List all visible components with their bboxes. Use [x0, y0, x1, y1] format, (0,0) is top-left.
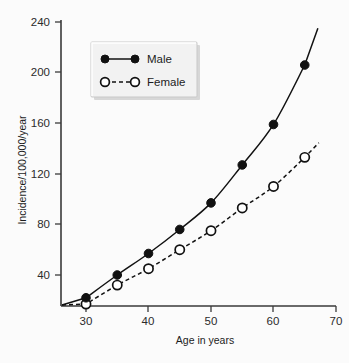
x-tick-label-70: 70 — [330, 315, 343, 327]
female-series-line — [62, 143, 319, 305]
chart-figure: 240 200 160 120 80 40 30 40 50 60 70 — [0, 0, 349, 363]
data-point-male-age-30 — [82, 293, 91, 302]
y-tick-group: 240 200 160 120 80 40 — [31, 16, 61, 281]
x-tick-label-60: 60 — [267, 315, 280, 327]
y-tick-label-160: 160 — [31, 117, 50, 129]
line-chart: 240 200 160 120 80 40 30 40 50 60 70 — [0, 0, 349, 363]
legend[interactable]: Male Female — [91, 42, 200, 100]
x-tick-label-40: 40 — [142, 315, 155, 327]
data-point-female-age-35 — [113, 281, 122, 290]
y-axis-title: Incidence/100,000/year — [16, 115, 28, 225]
x-tick-label-50: 50 — [205, 315, 218, 327]
x-axis-title: Age in years — [176, 334, 234, 346]
y-tick-label-200: 200 — [31, 66, 50, 78]
legend-male-marker-right — [131, 55, 139, 63]
data-point-female-age-60 — [269, 182, 278, 191]
data-point-female-age-55 — [238, 203, 247, 212]
data-point-male-age-60 — [269, 120, 278, 129]
legend-female-marker-left — [101, 78, 110, 87]
x-tick-group: 30 40 50 60 70 — [80, 306, 343, 327]
data-point-female-age-65 — [300, 153, 309, 162]
data-point-female-age-40 — [144, 264, 153, 273]
data-point-male-age-55 — [238, 161, 247, 170]
legend-label-male: Male — [147, 53, 172, 65]
y-tick-label-80: 80 — [37, 218, 50, 230]
x-tick-label-30: 30 — [80, 315, 93, 327]
legend-male-marker-left — [101, 55, 109, 63]
female-marker-group — [81, 153, 309, 309]
data-point-male-age-65 — [300, 61, 309, 70]
data-point-male-age-35 — [113, 271, 122, 280]
data-point-male-age-40 — [144, 249, 153, 258]
legend-box — [91, 42, 197, 97]
y-tick-label-40: 40 — [37, 269, 50, 281]
data-point-male-age-50 — [207, 199, 216, 208]
data-point-female-age-50 — [206, 226, 215, 235]
y-tick-label-120: 120 — [31, 168, 50, 180]
y-tick-label-240: 240 — [31, 16, 50, 28]
legend-female-marker-right — [131, 78, 140, 87]
data-point-male-age-45 — [175, 225, 184, 234]
legend-label-female: Female — [147, 76, 185, 88]
data-point-female-age-45 — [175, 245, 184, 254]
